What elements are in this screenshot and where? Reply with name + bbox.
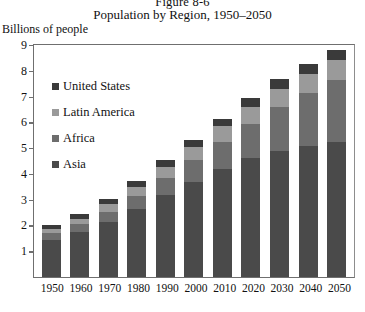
bar-segment-latin-america [127,187,146,196]
x-axis-label: 2050 [328,282,347,302]
bar-segment-asia [156,195,175,277]
bar-segment-africa [327,80,346,142]
y-axis-tick: 7 [21,91,34,103]
bar-segment-united-states [184,140,203,147]
stacked-bar [327,50,346,277]
bar-column [184,45,203,277]
bar-segment-asia [213,169,232,277]
stacked-bar [70,214,89,277]
bar-segment-africa [270,107,289,151]
y-axis-tick: 6 [21,116,34,128]
stacked-bar [42,225,61,277]
figure-title: Population by Region, 1950–2050 [0,7,365,23]
bar-segment-united-states [213,119,232,127]
bar-segment-asia [327,142,346,277]
bar-segment-latin-america [270,89,289,107]
bar-segment-asia [241,158,260,277]
bar-segment-africa [184,160,203,181]
y-axis-tick: 1 [21,245,34,257]
bar-segment-latin-america [213,126,232,141]
x-axis-label: 1980 [127,282,146,302]
bar-segment-latin-america [184,147,203,160]
bar-segment-united-states [327,50,346,60]
figure-container: Figure 8-6 Population by Region, 1950–20… [0,0,365,312]
bar-segment-africa [299,93,318,146]
bar-segment-latin-america [327,60,346,80]
bar-segment-africa [156,178,175,194]
legend-swatch-icon [52,83,59,90]
legend-item-united-states: United States [52,80,135,93]
stacked-bar [127,181,146,277]
stacked-bar [184,140,203,277]
x-axis-label: 2020 [242,282,261,302]
x-axis-label: 1970 [98,282,117,302]
stacked-bar [270,79,289,277]
bar-column [213,45,232,277]
x-axis-label: 1990 [156,282,175,302]
bar-segment-united-states [270,79,289,88]
bar-segment-asia [270,151,289,277]
bar-segment-asia [99,222,118,277]
bar-column [270,45,289,277]
bar-segment-africa [99,212,118,222]
bar-segment-latin-america [156,167,175,178]
legend-label: Africa [63,132,95,145]
legend-item-asia: Asia [52,158,135,171]
legend-item-latin-america: Latin America [52,106,135,119]
bar-segment-africa [70,224,89,232]
bar-segment-asia [184,182,203,277]
x-axis-label: 2000 [184,282,203,302]
y-axis-tick: 2 [21,219,34,231]
x-axis-label: 2010 [213,282,232,302]
x-axis-label: 1960 [70,282,89,302]
legend-swatch-icon [52,109,59,116]
y-axis-caption: Billions of people [2,22,88,37]
legend-label: Asia [63,158,86,171]
legend-swatch-icon [52,135,59,142]
bar-segment-asia [299,146,318,277]
bar-segment-latin-america [99,204,118,211]
stacked-bar [213,118,232,277]
y-axis-tick: 3 [21,194,34,206]
bar-column [156,45,175,277]
bar-column [327,45,346,277]
y-axis-tick: 8 [21,65,34,77]
stacked-bar [156,160,175,277]
legend-label: Latin America [63,106,135,119]
bar-column [299,45,318,277]
x-axis-label: 1950 [41,282,60,302]
bar-segment-africa [213,142,232,169]
bar-segment-africa [127,196,146,209]
x-axis-label: 2030 [271,282,290,302]
bar-segment-latin-america [299,74,318,93]
legend-swatch-icon [52,161,59,168]
stacked-bar [299,64,318,277]
y-axis-tick: 5 [21,142,34,154]
bar-segment-africa [241,124,260,159]
bar-segment-united-states [299,64,318,74]
x-axis-labels: 1950196019701980199020002010202020302040… [33,282,355,302]
y-axis-tick: 4 [21,168,34,180]
y-axis-tick: 9 [21,39,34,51]
legend-label: United States [63,80,130,93]
stacked-bar [99,199,118,277]
stacked-bar [241,98,260,277]
bar-segment-united-states [241,98,260,107]
bar-segment-asia [42,240,61,277]
bar-segment-asia [70,232,89,277]
bar-segment-asia [127,209,146,277]
legend-item-africa: Africa [52,132,135,145]
bar-segment-latin-america [241,107,260,124]
chart-legend: United StatesLatin AmericaAfricaAsia [52,80,135,171]
x-axis-label: 2040 [299,282,318,302]
bar-column [241,45,260,277]
